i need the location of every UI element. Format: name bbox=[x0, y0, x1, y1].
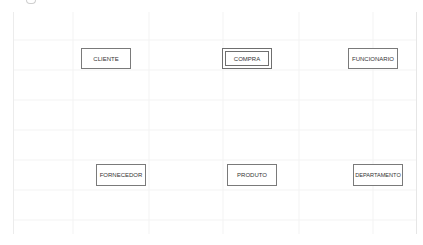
entity-funcionario[interactable]: FUNCIONARIO bbox=[348, 48, 398, 69]
entity-produto[interactable]: PRODUTO bbox=[227, 164, 277, 186]
entity-label: FUNCIONARIO bbox=[352, 56, 394, 62]
entity-label: COMPRA bbox=[234, 56, 260, 62]
entity-label: PRODUTO bbox=[237, 172, 267, 178]
diagram-canvas[interactable] bbox=[13, 12, 417, 234]
entity-label: CLIENTE bbox=[93, 56, 118, 62]
entity-departamento[interactable]: DEPARTAMENTO bbox=[353, 164, 403, 186]
entity-label: FORNECEDOR bbox=[100, 172, 143, 178]
scroll-handle-icon bbox=[26, 0, 36, 4]
entity-label: DEPARTAMENTO bbox=[355, 172, 401, 178]
entity-compra[interactable]: COMPRA bbox=[222, 48, 272, 69]
canvas-grid bbox=[14, 12, 416, 234]
entity-cliente[interactable]: CLIENTE bbox=[81, 48, 131, 69]
entity-fornecedor[interactable]: FORNECEDOR bbox=[96, 164, 146, 186]
